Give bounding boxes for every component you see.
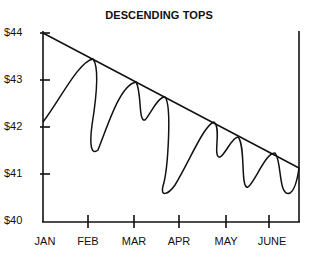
- chart-plot: [0, 0, 318, 259]
- axes: [40, 31, 300, 228]
- price-curve: [43, 59, 299, 193]
- descending-trend-line: [43, 33, 299, 168]
